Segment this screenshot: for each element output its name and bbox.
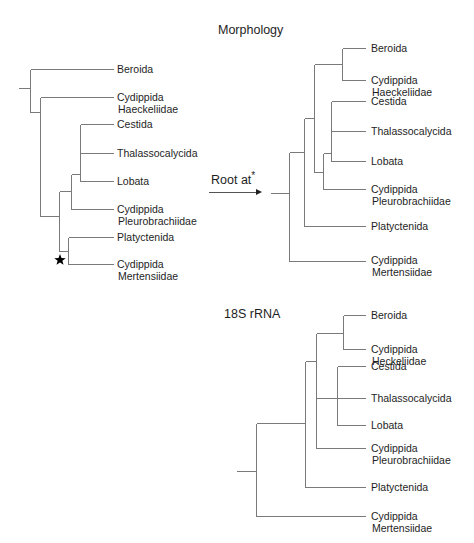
arrow-head-icon [256,189,262,195]
taxon-label-line: Lobata [371,155,403,167]
star-superscript: * [251,170,255,181]
tree-original-morphology: BeroidaCydippidaHaeckeliidaeCestidaThala… [19,63,198,282]
root-star-icon [54,254,65,265]
taxon-label: CydippidaPleurobrachiidae [371,442,451,466]
taxon-label-line: Mertensiidae [118,270,178,282]
taxon-label-line: Beroida [117,63,153,75]
taxon-label: Cestida [371,95,407,107]
taxon-label-line: Platyctenida [371,220,428,232]
taxon-label: Beroida [117,63,153,75]
taxon-label: Thalassocalycida [371,125,452,137]
taxon-label: Platyctenida [371,220,428,232]
taxon-label-line: Pleurobrachiidae [118,215,197,227]
trees-layer: BeroidaCydippidaHaeckeliidaeCestidaThala… [19,42,452,534]
taxon-label-line: Beroida [371,309,407,321]
taxon-label-line: Thalassocalycida [117,147,198,159]
taxon-label: Lobata [117,175,149,187]
taxon-label-line: Pleurobrachiidae [372,454,451,466]
taxon-label: Platyctenida [117,231,174,243]
rrna-title: 18S rRNA [224,307,281,321]
taxon-label-line: Mertensiidae [372,522,432,534]
root-at-label: Root at* [211,170,255,187]
taxon-label-line: Lobata [371,419,403,431]
taxon-label-line: Cydippida [371,442,418,454]
taxon-label: CydippidaPleurobrachiidae [117,203,197,227]
taxon-label: CydippidaPleurobrachiidae [371,183,451,207]
taxon-label: Cestida [371,360,407,372]
taxon-label-line: Thalassocalycida [371,125,452,137]
tree-18s-rrna: BeroidaCydippidaHeckeliidaeCestidaThalas… [237,309,452,534]
taxon-label-line: Cydippida [117,91,164,103]
reroot-annotation: Root at* [209,170,262,195]
taxon-label: Lobata [371,155,403,167]
root-at-text: Root at [211,173,252,187]
taxon-label-line: Cydippida [371,183,418,195]
taxon-label: CydippidaMertensiidae [371,254,432,278]
taxon-label: Thalassocalycida [117,147,198,159]
taxon-label: CydippidaMertensiidae [117,258,178,282]
phylogeny-figure: BeroidaCydippidaHaeckeliidaeCestidaThala… [0,0,474,543]
taxon-label: CydippidaMertensiidae [371,510,432,534]
taxon-label: Thalassocalycida [371,392,452,404]
taxon-label-line: Platyctenida [371,481,428,493]
phylogeny-svg: BeroidaCydippidaHaeckeliidaeCestidaThala… [0,0,474,543]
taxon-label-line: Cydippida [371,510,418,522]
taxon-label: Lobata [371,419,403,431]
taxon-label-line: Cestida [371,360,407,372]
taxon-label-line: Platyctenida [117,231,174,243]
tree-rerooted-morphology: BeroidaCydippidaHaeckeliidaeCestidaThala… [271,42,452,278]
morphology-title: Morphology [218,23,284,37]
taxon-label-line: Cydippida [371,74,418,86]
taxon-label-line: Cydippida [371,343,418,355]
taxon-label: Beroida [371,42,407,54]
taxon-label-line: Haeckeliidae [118,103,178,115]
taxon-label-line: Pleurobrachiidae [372,195,451,207]
taxon-label-line: Beroida [371,42,407,54]
taxon-label-line: Thalassocalycida [371,392,452,404]
taxon-label-line: Lobata [117,175,149,187]
taxon-label-line: Cydippida [117,203,164,215]
taxon-label-line: Cydippida [117,258,164,270]
taxon-label-line: Mertensiidae [372,266,432,278]
taxon-label-line: Cydippida [371,254,418,266]
taxon-label: CydippidaHaeckeliidae [117,91,178,115]
taxon-label: Cestida [117,118,153,130]
taxon-label: Beroida [371,309,407,321]
taxon-label: Platyctenida [371,481,428,493]
taxon-label-line: Cestida [371,95,407,107]
taxon-label-line: Cestida [117,118,153,130]
